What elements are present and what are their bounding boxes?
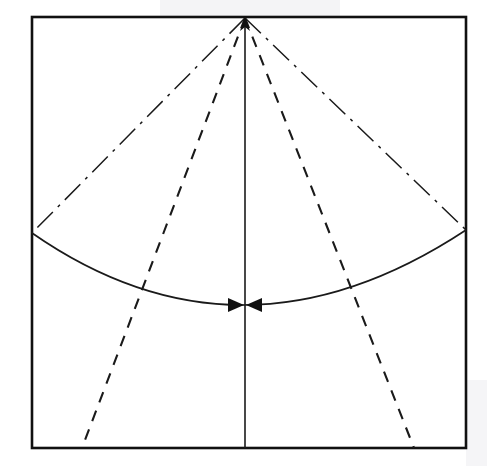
right-dashed-ray xyxy=(245,18,414,448)
arc-arrowhead-right-icon xyxy=(246,298,262,312)
figure-root xyxy=(0,0,487,466)
bounding-rectangle xyxy=(32,17,466,448)
arc-arrowhead-left-icon xyxy=(228,298,244,312)
right-radius-dashdot-line xyxy=(245,18,466,230)
spherical-cap-arc xyxy=(32,230,466,305)
cone-geometry-diagram xyxy=(0,0,487,466)
left-dashed-ray xyxy=(82,18,245,448)
left-radius-dashdot-line xyxy=(32,18,245,233)
